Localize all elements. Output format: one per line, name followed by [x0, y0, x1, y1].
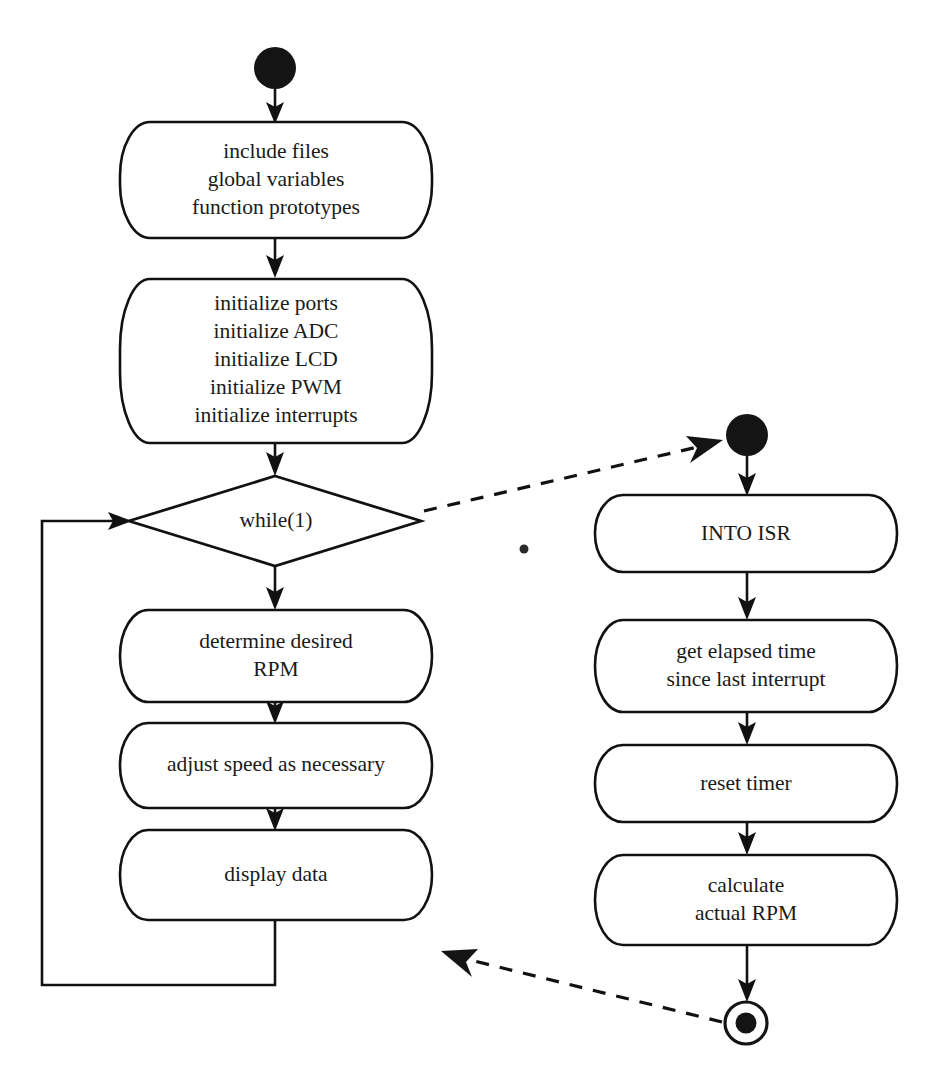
action-setup-declarations-line-3: function prototypes — [192, 195, 360, 219]
action-setup-declarations-line-2: global variables — [208, 167, 345, 191]
edge-adjust-speed-to-display-data — [266, 808, 284, 831]
edge-into-isr-to-get-elapsed-time — [738, 572, 756, 620]
action-display-data: display data — [120, 830, 432, 920]
initial-node-main — [254, 47, 296, 89]
action-determine-rpm: determine desired RPM — [120, 610, 432, 702]
action-adjust-speed-label: adjust speed as necessary — [167, 752, 385, 776]
edge-isr-start-to-into-isr — [738, 456, 756, 496]
initial-node-isr — [726, 414, 768, 456]
action-setup-declarations: include files global variables function … — [120, 122, 432, 238]
action-determine-rpm-line-1: determine desired — [199, 629, 353, 653]
action-initializations-line-1: initialize ports — [214, 291, 338, 315]
action-into-isr-label: INTO ISR — [701, 521, 791, 545]
action-reset-timer: reset timer — [595, 745, 897, 822]
edge-determine-rpm-to-adjust-speed — [266, 701, 284, 724]
action-reset-timer-label: reset timer — [700, 771, 791, 795]
action-calculate-rpm-line-1: calculate — [708, 873, 784, 897]
action-setup-declarations-line-1: include files — [223, 139, 329, 163]
action-initializations: initialize ports initialize ADC initiali… — [120, 279, 432, 443]
action-calculate-rpm: calculate actual RPM — [595, 855, 897, 945]
decision-while-loop: while(1) — [129, 476, 421, 566]
edge-start-to-setup — [266, 89, 284, 124]
edge-while-to-determine-rpm — [266, 566, 284, 610]
scan-artifact-speck — [520, 545, 529, 554]
final-node-isr — [725, 1002, 767, 1044]
activity-diagram: include files global variables function … — [0, 0, 947, 1091]
edge-get-elapsed-time-to-reset-timer — [738, 712, 756, 745]
edge-init-to-while — [266, 443, 284, 476]
decision-while-loop-label: while(1) — [240, 508, 313, 532]
action-initializations-line-2: initialize ADC — [214, 319, 339, 343]
action-display-data-label: display data — [224, 862, 328, 886]
action-initializations-line-3: initialize LCD — [214, 347, 338, 371]
action-initializations-line-5: initialize interrupts — [195, 403, 358, 427]
edge-setup-to-init — [266, 238, 284, 278]
action-determine-rpm-line-2: RPM — [253, 657, 298, 681]
action-get-elapsed-time: get elapsed time since last interrupt — [595, 620, 897, 712]
action-get-elapsed-time-line-1: get elapsed time — [676, 639, 816, 663]
edge-calculate-rpm-to-isr-end — [738, 945, 756, 1002]
edge-isr-return-dashed — [441, 949, 722, 1022]
action-adjust-speed: adjust speed as necessary — [120, 723, 432, 808]
edge-reset-timer-to-calculate-rpm — [738, 822, 756, 855]
action-get-elapsed-time-line-2: since last interrupt — [667, 667, 826, 691]
action-into-isr: INTO ISR — [595, 495, 897, 572]
action-initializations-line-4: initialize PWM — [210, 375, 342, 399]
action-calculate-rpm-line-2: actual RPM — [695, 901, 797, 925]
diagram-canvas: include files global variables function … — [0, 0, 947, 1091]
